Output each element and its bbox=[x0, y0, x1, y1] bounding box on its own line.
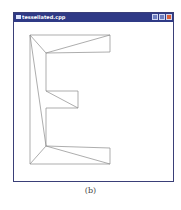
figure-caption: (b) bbox=[0, 186, 181, 195]
tessellated-e-shape bbox=[0, 0, 181, 210]
